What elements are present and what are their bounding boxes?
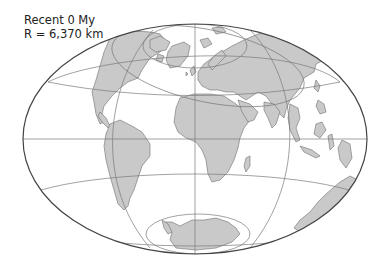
south-america bbox=[104, 120, 150, 210]
philippines bbox=[316, 100, 326, 114]
greenland bbox=[166, 42, 190, 68]
borneo bbox=[314, 122, 326, 138]
africa bbox=[174, 94, 250, 182]
world-map bbox=[0, 0, 386, 275]
indonesia bbox=[300, 134, 334, 158]
new-guinea bbox=[338, 140, 352, 168]
madagascar bbox=[244, 156, 250, 172]
